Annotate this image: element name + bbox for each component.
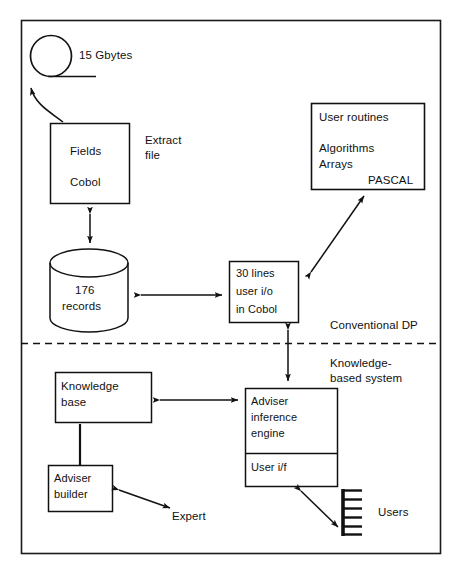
pascal-box-line3: Arrays — [319, 157, 353, 171]
user-io-line3: in Cobol — [236, 303, 277, 317]
tape-label: 15 Gbytes — [79, 48, 132, 62]
connector-user-io-to-pascal — [311, 196, 364, 272]
connector-tape-to-extract — [31, 88, 63, 122]
divider-label-below-line2: based system — [330, 371, 402, 385]
user-io-line1: 30 lines — [236, 267, 275, 281]
users-label: Users — [378, 505, 409, 519]
tape-reel-icon — [31, 36, 72, 77]
connector-user-if-to-users — [301, 491, 338, 527]
adviser-engine-line1: Adviser — [251, 395, 288, 409]
divider-label-below-line1: Knowledge- — [330, 356, 392, 370]
diagram-canvas: 15 Gbytes Fields Cobol Extract file 176 … — [0, 0, 457, 571]
expert-label: Expert — [172, 509, 206, 523]
pascal-box-line2: Algorithms — [319, 141, 374, 155]
terminal-stack-icon — [343, 489, 362, 536]
extract-caption-line1: Extract — [145, 133, 182, 147]
adviser-builder-line1: Adviser — [54, 472, 91, 486]
adviser-engine-line3: engine — [251, 427, 285, 441]
extract-box-line1: Fields — [70, 144, 101, 158]
user-io-line2: user i/o — [236, 285, 273, 299]
divider-label-above: Conventional DP — [330, 318, 418, 332]
node-extract-box — [51, 124, 130, 204]
database-line2: records — [62, 299, 101, 313]
knowledge-base-line1: Knowledge — [61, 379, 119, 393]
user-if-label: User i/f — [251, 461, 287, 475]
pascal-box-line1: User routines — [319, 110, 389, 124]
database-line1: 176 — [75, 283, 95, 297]
connector-adviser-builder-to-expert — [119, 490, 170, 508]
knowledge-base-line2: base — [61, 395, 86, 409]
adviser-engine-line2: inference — [251, 411, 297, 425]
extract-box-line2: Cobol — [70, 175, 101, 189]
adviser-builder-line2: builder — [54, 488, 88, 502]
extract-caption-line2: file — [145, 148, 160, 162]
node-database-cylinder-top — [50, 249, 128, 277]
pascal-box-line4: PASCAL — [368, 173, 413, 187]
